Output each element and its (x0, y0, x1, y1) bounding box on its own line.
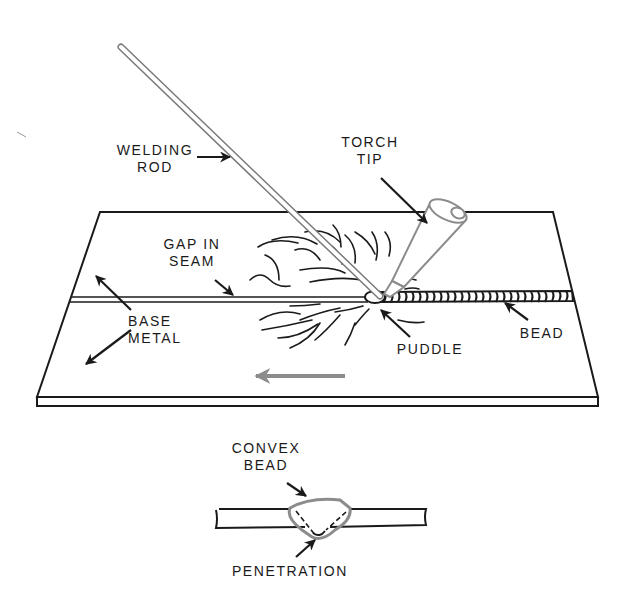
label-line: SEAM (156, 253, 228, 270)
label-torch-tip: TORCH TIP (335, 134, 405, 168)
label-puddle: PUDDLE (390, 341, 470, 358)
welding-diagram: WELDING ROD TORCH TIP GAP IN SEAM BASE M… (0, 0, 635, 596)
label-bead: BEAD (512, 325, 572, 342)
label-line: CONVEX (226, 440, 306, 457)
label-line: METAL (128, 330, 200, 347)
label-line: BASE (128, 313, 200, 330)
label-line: PENETRATION (220, 563, 360, 580)
label-line: TORCH (335, 134, 405, 151)
label-gap-in-seam: GAP IN SEAM (156, 236, 228, 270)
label-line: TIP (335, 151, 405, 168)
label-base-metal: BASE METAL (128, 313, 200, 347)
label-line: PUDDLE (390, 341, 470, 358)
label-line: WELDING (110, 142, 200, 159)
label-penetration: PENETRATION (220, 563, 360, 580)
label-line: BEAD (226, 457, 306, 474)
label-line: BEAD (512, 325, 572, 342)
label-welding-rod: WELDING ROD (110, 142, 200, 176)
weld-bead (380, 291, 573, 302)
diagram-canvas (0, 0, 635, 596)
label-line: GAP IN (156, 236, 228, 253)
cross-section (216, 483, 426, 557)
label-line: ROD (110, 159, 200, 176)
label-convex-bead: CONVEX BEAD (226, 440, 306, 474)
